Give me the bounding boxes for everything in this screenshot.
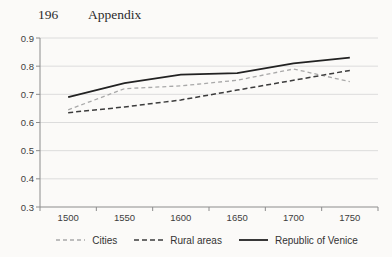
series-line-rural-areas [68,70,350,112]
legend-label: Cities [92,235,117,246]
legend-label: Rural areas [170,235,222,246]
chart-legend: CitiesRural areasRepublic of Venice [0,231,392,249]
book-page: 196 Appendix 0.30.40.50.60.70.80.9150015… [0,0,392,257]
legend-item-republic-of-venice: Republic of Venice [239,235,358,246]
x-tick-label: 1650 [227,212,248,223]
y-tick-label: 0.3 [21,202,34,213]
x-tick-label: 1700 [283,212,304,223]
x-tick-label: 1600 [170,212,191,223]
solid-line-sample-icon [239,237,268,243]
y-tick-label: 0.8 [21,61,34,72]
legend-item-rural-areas: Rural areas [134,235,222,246]
y-tick-label: 0.5 [21,145,34,156]
x-tick-label: 1500 [58,212,79,223]
legend-item-cities: Cities [56,235,117,246]
legend-label: Republic of Venice [275,235,358,246]
y-tick-label: 0.4 [21,173,34,184]
dashed-line-sample-icon [134,237,163,243]
y-tick-label: 0.9 [21,33,34,44]
x-tick-label: 1550 [114,212,135,223]
dashed-line-sample-icon [56,237,85,243]
x-tick-label: 1750 [339,212,360,223]
line-chart-plot: 0.30.40.50.60.70.80.91500155016001650170… [0,0,392,257]
y-tick-label: 0.7 [21,89,34,100]
series-line-cities [68,69,350,110]
y-tick-label: 0.6 [21,117,34,128]
